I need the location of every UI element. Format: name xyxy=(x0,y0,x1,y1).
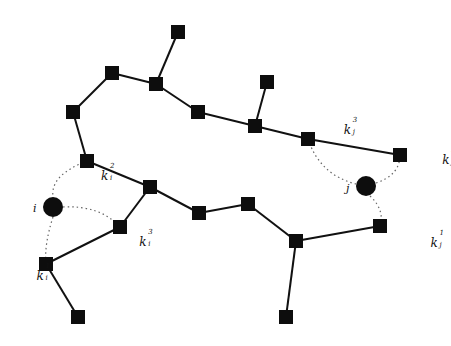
circle-label-i: i xyxy=(33,203,37,214)
graph-edges xyxy=(46,32,400,317)
square-node xyxy=(171,25,185,39)
graph-diagram: ijk2ik3ik1ik3jk2jk1j xyxy=(0,0,451,346)
graph-edge xyxy=(308,139,400,155)
dotted-link xyxy=(46,217,53,264)
node-label-k-i-1: k1i xyxy=(37,270,44,282)
square-node xyxy=(113,220,127,234)
circle-node-j xyxy=(356,176,376,196)
square-node xyxy=(192,206,206,220)
square-node xyxy=(191,105,205,119)
circle-label-j: j xyxy=(346,183,349,194)
square-node xyxy=(80,154,94,168)
square-node xyxy=(71,310,85,324)
node-label-k-i-2: k2i xyxy=(101,170,108,182)
graph-edge xyxy=(46,264,78,317)
graph-edge xyxy=(156,32,178,84)
graph-svg xyxy=(0,0,451,346)
dotted-links xyxy=(46,139,400,264)
graph-edge xyxy=(46,227,120,264)
square-node xyxy=(248,119,262,133)
graph-edge xyxy=(199,204,248,213)
square-node xyxy=(66,105,80,119)
node-label-k-j-2: k2j xyxy=(442,154,449,166)
node-label-k-i-3: k3i xyxy=(139,236,146,248)
graph-edge xyxy=(87,161,150,187)
node-label-k-j-1: k1j xyxy=(430,237,437,249)
square-node xyxy=(289,234,303,248)
graph-edge xyxy=(73,112,87,161)
graph-edge xyxy=(296,226,380,241)
graph-nodes xyxy=(39,25,407,324)
square-node xyxy=(105,66,119,80)
square-node xyxy=(393,148,407,162)
square-node xyxy=(143,180,157,194)
square-node xyxy=(149,77,163,91)
square-node xyxy=(241,197,255,211)
square-node xyxy=(260,75,274,89)
circle-node-i xyxy=(43,197,63,217)
graph-edge xyxy=(150,187,199,213)
graph-edge xyxy=(198,112,255,126)
square-node xyxy=(279,310,293,324)
node-label-k-j-3: k3j xyxy=(344,124,351,136)
square-node xyxy=(301,132,315,146)
graph-edge xyxy=(255,126,308,139)
graph-edge xyxy=(248,204,296,241)
graph-edge xyxy=(286,241,296,317)
square-node xyxy=(373,219,387,233)
dotted-link xyxy=(63,207,120,227)
